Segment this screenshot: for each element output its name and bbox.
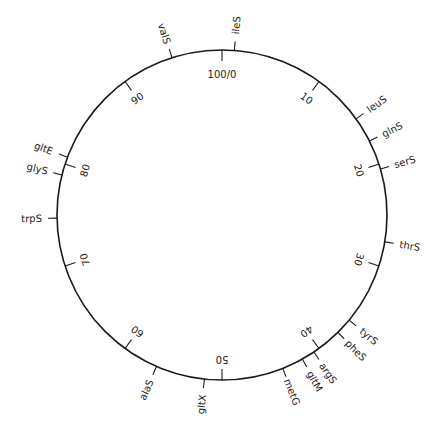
scale-ticks: 100/0102030405060708090 (65, 50, 379, 380)
scale-tick-label: 60 (129, 323, 146, 339)
gene-label-serS: serS (393, 154, 417, 171)
scale-tick (313, 82, 319, 91)
scale-tick (65, 164, 75, 167)
scale-tick (65, 263, 75, 266)
scale-tick (368, 263, 378, 266)
gene-label-thrS: thrS (399, 239, 421, 253)
gene-tick (153, 366, 157, 374)
scale-tick-label: 90 (129, 90, 146, 106)
scale-tick-label: 50 (216, 354, 229, 365)
scale-tick-label: 40 (298, 323, 315, 339)
scale-tick-label: 70 (78, 252, 92, 268)
scale-tick-label: 80 (78, 163, 92, 179)
scale-tick-label: 30 (352, 252, 366, 268)
gene-tick (369, 137, 377, 141)
gene-tick (380, 166, 389, 169)
gene-label-gltX: gltX (195, 394, 208, 415)
gene-label-alaS: alaS (137, 378, 156, 402)
scale-tick (125, 340, 131, 349)
scale-tick-label: 20 (352, 163, 366, 179)
gene-label-gltE: gltE (33, 140, 55, 157)
gene-tick (349, 320, 356, 326)
scale-tick (368, 164, 378, 167)
gene-label-valS: valS (156, 22, 173, 46)
gene-label-glnS: glnS (380, 120, 404, 140)
gene-tick (314, 352, 319, 359)
gene-tick (283, 368, 286, 376)
gene-label-metG: metG (282, 377, 302, 407)
gene-tick (203, 379, 204, 388)
gene-label-tyrS: tyrS (357, 326, 380, 347)
gene-tick (356, 114, 363, 119)
scale-tick-label: 10 (298, 90, 315, 106)
gene-label-leuS: leuS (365, 93, 389, 115)
gene-tick (302, 359, 306, 367)
gene-label-ileS: ileS (230, 16, 242, 35)
circular-gene-map: 100/0102030405060708090 ileSleuSglnSserS… (0, 0, 446, 429)
scale-tick (125, 82, 131, 91)
gene-label-trpS: trpS (21, 213, 42, 224)
chromosome-circle (57, 50, 387, 380)
gene-tick (234, 41, 235, 50)
gene-tick (169, 49, 172, 58)
gene-tick (53, 173, 62, 175)
gene-tick (338, 332, 344, 338)
scale-tick-label: 100/0 (208, 69, 237, 80)
gene-tick (59, 154, 67, 157)
gene-label-glyS: glyS (26, 161, 49, 177)
scale-tick (313, 340, 319, 349)
gene-tick (385, 242, 394, 243)
gene-label-pheS: pheS (343, 338, 369, 364)
